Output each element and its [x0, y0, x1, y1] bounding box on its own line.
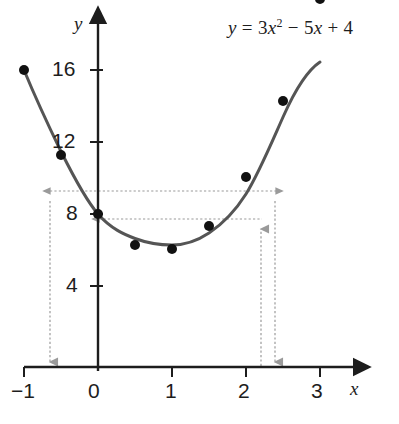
equation-plus: +: [327, 17, 338, 38]
y-tick-label-8: 8: [66, 202, 78, 223]
equation-lhs: y: [228, 17, 237, 38]
x-tick-label-3: 3: [311, 380, 323, 401]
y-tick-label-4: 4: [66, 274, 78, 295]
x-tick-label-2: 2: [238, 380, 250, 401]
equation-var-2: x: [314, 17, 323, 38]
y-tick-label-16: 16: [52, 58, 75, 79]
x-tick-label-1: 1: [165, 380, 177, 401]
data-point: [130, 240, 140, 250]
data-point: [204, 221, 214, 231]
data-point: [315, 0, 325, 4]
equation-coef-linear: 5: [304, 17, 314, 38]
data-point: [241, 172, 251, 182]
x-tick-label-0: 0: [88, 380, 100, 401]
x-tick-label-minus-1: −1: [11, 380, 35, 401]
data-point: [167, 244, 177, 254]
graph-figure: 16 12 8 4 −1 0 1 2 3 y x y = 3x2 − 5x + …: [0, 0, 399, 424]
y-axis-label: y: [74, 14, 82, 33]
equation-coef-quadratic: 3: [258, 17, 268, 38]
equation-constant: 4: [344, 17, 354, 38]
equation-equals: =: [242, 17, 253, 38]
equation-minus: −: [288, 17, 299, 38]
data-point: [93, 209, 103, 219]
construction-guides: [50, 191, 276, 366]
data-point: [19, 65, 29, 75]
equation-exponent: 2: [276, 16, 282, 30]
data-point: [278, 96, 288, 106]
equation-label: y = 3x2 − 5x + 4: [228, 18, 353, 37]
x-axis-label: x: [350, 379, 358, 398]
y-tick-label-12: 12: [52, 130, 75, 151]
